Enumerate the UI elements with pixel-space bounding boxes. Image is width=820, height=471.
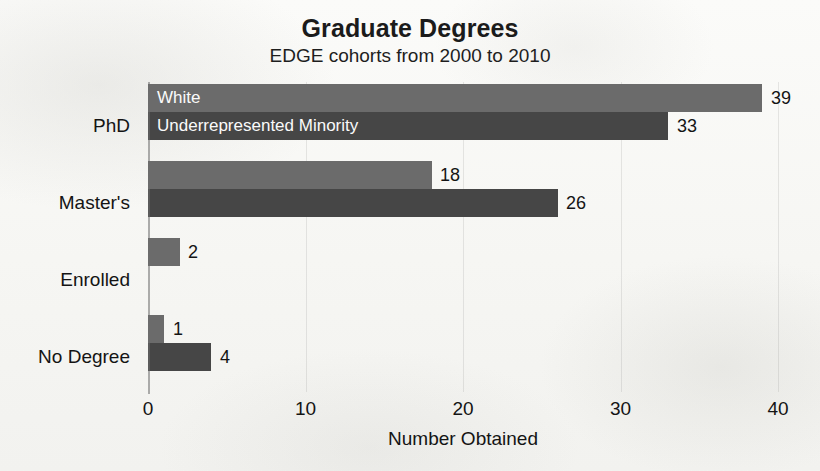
value-label-masters-urm: 26	[566, 193, 586, 214]
x-tick-label-30: 30	[610, 398, 631, 420]
x-tick-label-40: 40	[767, 398, 788, 420]
bar-phd-white: White	[148, 84, 762, 112]
value-label-enrolled-white: 2	[188, 242, 198, 263]
bar-phd-urm: Underrepresented Minority	[148, 112, 668, 140]
category-label-phd: PhD	[0, 115, 130, 137]
chart-subtitle: EDGE cohorts from 2000 to 2010	[0, 45, 820, 67]
x-tick-label-20: 20	[452, 398, 473, 420]
legend-label-urm: Underrepresented Minority	[157, 116, 358, 136]
category-label-nodegree: No Degree	[0, 346, 130, 368]
category-label-enrolled: Enrolled	[0, 269, 130, 291]
value-label-nodegree-white: 1	[173, 319, 183, 340]
plot-area: White Underrepresented Minority 39 33 18…	[148, 82, 778, 392]
bar-enrolled-white	[148, 238, 180, 266]
category-label-masters: Master's	[0, 192, 130, 214]
y-axis-line	[148, 82, 150, 394]
legend-label-white: White	[157, 88, 200, 108]
gridline-40	[778, 82, 779, 392]
bar-chart: Graduate Degrees EDGE cohorts from 2000 …	[0, 0, 820, 471]
bar-masters-white	[148, 161, 432, 189]
value-label-nodegree-urm: 4	[220, 347, 230, 368]
x-axis-title: Number Obtained	[148, 428, 778, 450]
value-label-masters-white: 18	[440, 165, 460, 186]
bar-nodegree-urm	[148, 343, 211, 371]
bar-nodegree-white	[148, 315, 164, 343]
bar-masters-urm	[148, 189, 558, 217]
x-tick-label-10: 10	[295, 398, 316, 420]
chart-title: Graduate Degrees	[0, 14, 820, 43]
value-label-phd-urm: 33	[677, 116, 697, 137]
x-tick-label-0: 0	[143, 398, 154, 420]
value-label-phd-white: 39	[771, 88, 791, 109]
